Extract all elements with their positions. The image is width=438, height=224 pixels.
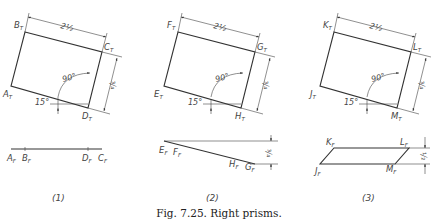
vertex-label-b: BT — [14, 20, 24, 31]
view-number-1: (1) — [52, 193, 65, 203]
extension-line — [334, 13, 338, 32]
extension-line — [88, 108, 110, 114]
figure-caption: Fig. 7.25. Right prisms. — [156, 207, 282, 219]
front-label-e: EF — [159, 145, 168, 156]
front-label-h: HF — [229, 159, 239, 170]
front-label-f: FF — [173, 147, 182, 158]
front-label-d: DF — [82, 153, 93, 164]
front-label-k: KF — [326, 137, 336, 148]
vertex-label-m: MT — [391, 111, 402, 122]
depth-dimension-text: ¾ — [107, 80, 118, 90]
front-label-j: JF — [313, 166, 322, 177]
angle-90-label: 90° — [214, 72, 230, 84]
depth-dimension-text: ¾ — [260, 80, 271, 90]
extension-line — [178, 13, 182, 32]
front-view-2 — [164, 135, 278, 170]
vertex-label-d: DT — [82, 111, 93, 122]
height-dimension-text: ½ — [418, 151, 429, 161]
angle-90-label: 90° — [61, 72, 77, 84]
extension-line — [25, 13, 29, 32]
front-view-3 — [320, 137, 430, 174]
width-dimension-text: 2½ — [368, 21, 383, 33]
front-label-b: BF — [22, 153, 32, 164]
angle-15-label: 15° — [35, 98, 49, 107]
top-rectangle — [11, 32, 102, 108]
height-dimension-text: ¾ — [263, 148, 274, 158]
vertex-label-j: JT — [308, 89, 317, 100]
vertex-label-e: ET — [154, 89, 163, 100]
view-number-3: (3) — [362, 193, 375, 203]
angle-15-label: 15° — [188, 98, 202, 107]
front-parallelogram — [320, 148, 409, 164]
vertex-label-c: CT — [104, 42, 114, 53]
top-rectangle — [320, 32, 411, 108]
vertex-label-a: AT — [2, 89, 13, 100]
view-2: FT GT ET HT 2½ ¾ 90° 15° EF FF HF GF ¾ (… — [154, 13, 278, 203]
figure-canvas: BT CT AT DT 2½ ¾ 90° 15° AF BF DF CF (1) — [0, 0, 438, 224]
extension-line — [397, 108, 419, 114]
extension-line — [241, 108, 263, 114]
width-dimension-text: 2½ — [59, 21, 74, 33]
width-dimension-text: 2½ — [212, 21, 227, 33]
vertex-label-l: LT — [413, 42, 422, 53]
vertex-label-f: FT — [167, 20, 176, 31]
top-rectangle — [164, 32, 255, 108]
front-view-1 — [11, 147, 102, 151]
front-label-m: MF — [386, 164, 397, 175]
front-label-c: CF — [98, 153, 108, 164]
view-number-2: (2) — [206, 193, 219, 203]
vertex-label-h: HT — [235, 111, 245, 122]
depth-dimension-text: ¾ — [416, 80, 427, 90]
vertex-label-k: KT — [323, 20, 333, 31]
front-label-l: LF — [400, 137, 409, 148]
view-1: BT CT AT DT 2½ ¾ 90° 15° AF BF DF CF (1) — [2, 13, 122, 203]
angle-90-label: 90° — [370, 72, 386, 84]
view-3: KT LT JT MT 2½ ¾ 90° 15° KF LF JF MF ½ (… — [308, 13, 431, 203]
angle-15-label: 15° — [344, 98, 358, 107]
front-label-a: AF — [6, 153, 17, 164]
vertex-label-g: GT — [257, 42, 268, 53]
